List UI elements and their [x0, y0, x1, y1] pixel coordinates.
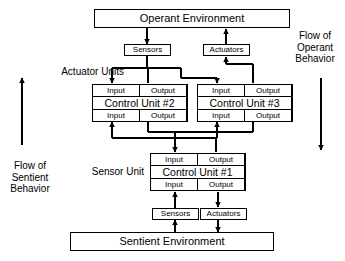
- operant-environment-box: Operant Environment: [94, 9, 290, 28]
- operant-actuators-box: Actuators: [203, 44, 250, 56]
- label-flow-operant-behavior: Flow of Operant Behavior: [286, 30, 344, 65]
- operant-sensors-box: Sensors: [124, 44, 171, 56]
- cu3-bottom-output: Output: [244, 109, 292, 122]
- label-actuator-units: Actuator Units: [24, 66, 124, 78]
- cu2-bottom-row: Input Output: [93, 110, 187, 122]
- control-unit-3: Input Output Control Unit #3 Input Outpu…: [197, 84, 293, 122]
- cu1-bottom-row: Input Output: [151, 179, 245, 191]
- label-flow-sentient-behavior: Flow of Sentient Behavior: [0, 160, 60, 195]
- cu3-bottom-row: Input Output: [198, 110, 292, 122]
- sentient-sensors-box: Sensors: [152, 208, 199, 220]
- label-sensor-unit: Sensor Unit: [54, 166, 144, 178]
- cu2-bottom-output: Output: [139, 109, 187, 122]
- control-unit-1: Input Output Control Unit #1 Input Outpu…: [150, 153, 246, 191]
- cu1-title: Control Unit #1: [150, 165, 245, 179]
- cu3-bottom-input: Input: [197, 109, 245, 122]
- sentient-environment-box: Sentient Environment: [70, 232, 274, 251]
- cu2-bottom-input: Input: [92, 109, 140, 122]
- control-unit-2: Input Output Control Unit #2 Input Outpu…: [92, 84, 188, 122]
- cu1-bottom-output: Output: [197, 178, 245, 191]
- cu1-bottom-input: Input: [150, 178, 198, 191]
- sentient-actuators-box: Actuators: [200, 208, 247, 220]
- diagram-canvas: Operant Environment Sensors Actuators In…: [0, 0, 345, 261]
- cu3-title: Control Unit #3: [197, 96, 292, 110]
- cu2-title: Control Unit #2: [92, 96, 187, 110]
